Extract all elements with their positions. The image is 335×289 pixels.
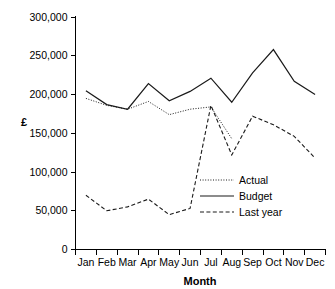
- y-axis-ticks: [71, 17, 76, 250]
- y-tick-label-5: 250,000: [30, 49, 68, 61]
- y-tick-label-1: 50,000: [35, 204, 67, 216]
- x-tick-label-may: May: [159, 256, 180, 268]
- x-tick-label-jul: Jul: [204, 256, 217, 268]
- legend-label-actual: Actual: [239, 174, 268, 186]
- x-tick-label-oct: Oct: [265, 256, 281, 268]
- line-chart: 050,000100,000150,000200,000250,000300,0…: [0, 0, 335, 289]
- legend-label-last-year: Last year: [239, 206, 283, 218]
- data-series-group: [86, 50, 315, 215]
- y-axis: 050,000100,000150,000200,000250,000300,0…: [21, 11, 76, 256]
- x-tick-label-nov: Nov: [285, 256, 304, 268]
- x-tick-label-sep: Sep: [243, 256, 262, 268]
- y-axis-tick-labels: 050,000100,000150,000200,000250,000300,0…: [30, 11, 68, 256]
- chart-legend: ActualBudgetLast year: [200, 174, 283, 218]
- y-tick-label-4: 200,000: [30, 88, 68, 100]
- x-tick-label-jan: Jan: [77, 256, 94, 268]
- x-tick-label-dec: Dec: [306, 256, 325, 268]
- x-tick-label-mar: Mar: [119, 256, 138, 268]
- x-axis-tick-labels: JanFebMarAprMayJunJulAugSepOctNovDec: [77, 256, 324, 268]
- chart-canvas: 050,000100,000150,000200,000250,000300,0…: [0, 0, 335, 289]
- y-tick-label-2: 100,000: [30, 166, 68, 178]
- y-tick-label-3: 150,000: [30, 127, 68, 139]
- x-axis-ticks: [76, 250, 326, 255]
- x-axis: JanFebMarAprMayJunJulAugSepOctNovDec Mon…: [76, 250, 326, 288]
- legend-label-budget: Budget: [239, 190, 272, 202]
- x-tick-label-feb: Feb: [98, 256, 116, 268]
- y-tick-label-0: 0: [62, 243, 68, 255]
- x-axis-title: Month: [184, 275, 217, 287]
- y-tick-label-6: 300,000: [30, 11, 68, 23]
- series-line-last-year: [86, 105, 315, 214]
- series-line-budget: [86, 50, 315, 110]
- x-tick-label-aug: Aug: [222, 256, 241, 268]
- x-tick-label-jun: Jun: [182, 256, 199, 268]
- x-tick-label-apr: Apr: [140, 256, 157, 268]
- y-axis-title: £: [21, 116, 27, 128]
